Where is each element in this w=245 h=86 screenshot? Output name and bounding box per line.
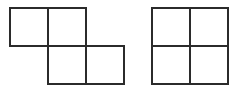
s-tetromino-cell-2 [48,46,86,84]
shapes-diagram [0,0,245,86]
s-tetromino-cell-3 [86,46,124,84]
s-tetromino-cell-1 [48,8,86,46]
o-tetromino-square-cell-1 [190,8,228,46]
o-tetromino-square-cell-2 [152,46,190,84]
s-tetromino-figure [10,8,124,84]
s-tetromino-cell-0 [10,8,48,46]
o-tetromino-square-figure [152,8,228,84]
o-tetromino-square-cell-3 [190,46,228,84]
figure-canvas [0,0,245,86]
o-tetromino-square-cell-0 [152,8,190,46]
